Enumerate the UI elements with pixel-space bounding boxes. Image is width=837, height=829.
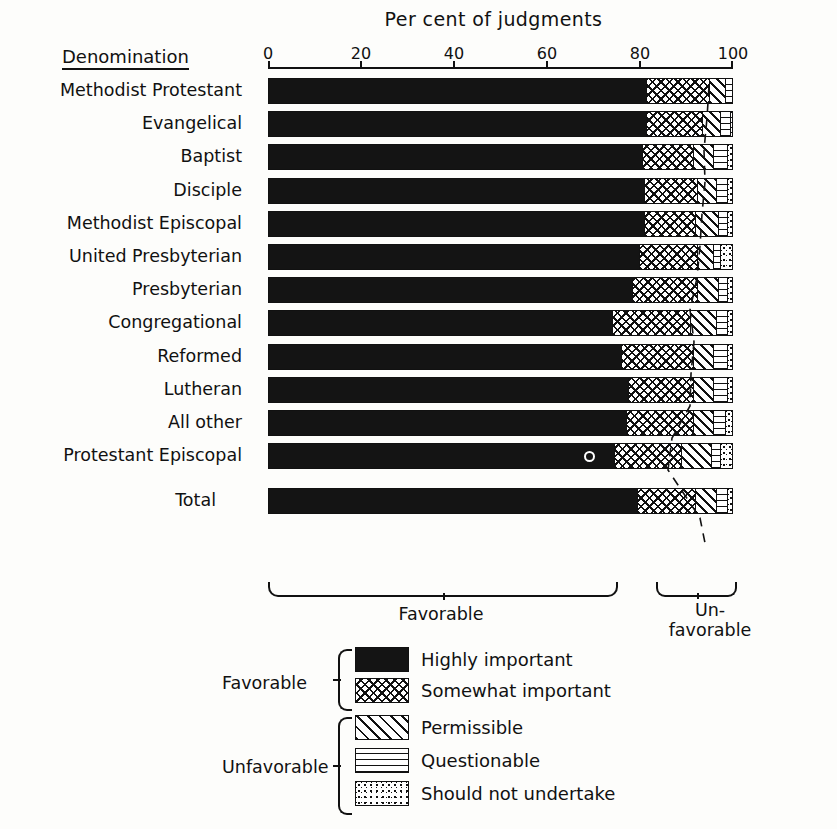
- x-axis-tick-label-100: 100: [718, 44, 749, 63]
- stacked-bar: [268, 144, 733, 170]
- legend-label-somewhat: Somewhat important: [421, 680, 611, 701]
- stacked-bar: [268, 211, 733, 237]
- bar-segment-somewhat: [632, 278, 697, 302]
- stacked-bar: [268, 344, 733, 370]
- bar-segment-shouldnot: [727, 378, 732, 402]
- bar-segment-somewhat: [644, 212, 695, 236]
- bar-segment-permissible: [693, 378, 714, 402]
- x-axis-line: [268, 67, 733, 69]
- bar-row: Congregational: [0, 310, 837, 343]
- bar-segment-somewhat: [637, 489, 695, 513]
- stacked-bar: [268, 178, 733, 204]
- bar-segment-somewhat: [642, 145, 693, 169]
- bar-segment-somewhat: [614, 444, 681, 468]
- legend-item-shouldnot: Should not undertake: [355, 781, 615, 806]
- bar-row-label: Methodist Episcopal: [67, 213, 242, 233]
- bar-segment-highly: [269, 245, 639, 269]
- x-axis-tick-label-20: 20: [351, 44, 371, 63]
- unfavorable-label-line1: Un-: [695, 600, 725, 620]
- stacked-bar: [268, 443, 733, 469]
- legend-item-somewhat: Somewhat important: [355, 678, 611, 703]
- x-axis-tick-label-0: 0: [263, 44, 273, 63]
- bar-segment-highly: [269, 112, 646, 136]
- bar-row: All other: [0, 410, 837, 443]
- bar-segment-somewhat: [639, 245, 697, 269]
- bar-row: Total: [0, 488, 837, 521]
- bottom-brackets: Favorable Un- favorable: [0, 582, 837, 642]
- unfavorable-bracket: [656, 582, 737, 597]
- bar-row-label: Presbyterian: [132, 279, 242, 299]
- legend: Favorable Unfavorable Highly importantSo…: [0, 645, 837, 825]
- legend-item-questionable: Questionable: [355, 748, 540, 773]
- bar-segment-somewhat: [621, 345, 693, 369]
- chart-root: Per cent of judgments Denomination 02040…: [0, 0, 837, 829]
- bar-row-label: Total: [175, 490, 216, 510]
- bar-row-label: Disciple: [173, 180, 242, 200]
- bar-segment-shouldnot: [725, 411, 732, 435]
- bar-segment-questionable: [713, 345, 727, 369]
- bar-segment-questionable: [716, 311, 728, 335]
- unfavorable-bracket-label: Un- favorable: [640, 600, 780, 640]
- stacked-bar: [268, 244, 733, 270]
- favorable-bracket: [268, 582, 618, 597]
- bar-segment-shouldnot: [727, 212, 732, 236]
- legend-swatch-somewhat: [355, 678, 409, 703]
- bar-row: Baptist: [0, 144, 837, 177]
- stacked-bar: [268, 488, 733, 514]
- legend-swatch-shouldnot: [355, 781, 409, 806]
- legend-brace-favorable: [338, 649, 352, 711]
- bar-segment-somewhat: [612, 311, 691, 335]
- bar-row: Methodist Protestant: [0, 78, 837, 111]
- legend-swatch-permissible: [355, 715, 409, 740]
- bar-row: Protestant Episcopal: [0, 443, 837, 476]
- bar-segment-shouldnot: [727, 489, 732, 513]
- bar-segment-permissible: [697, 278, 718, 302]
- x-axis-tick-label-40: 40: [444, 44, 464, 63]
- bar-segment-highly: [269, 212, 644, 236]
- legend-group-favorable: Favorable: [222, 673, 307, 693]
- bar-segment-highly: [269, 145, 642, 169]
- bar-row-label: Protestant Episcopal: [63, 445, 242, 465]
- legend-brace-unfavorable: [338, 717, 352, 815]
- bar-segment-questionable: [713, 245, 720, 269]
- legend-item-highly: Highly important: [355, 647, 573, 672]
- bar-segment-questionable: [718, 278, 727, 302]
- bar-segment-highly: [269, 411, 626, 435]
- unfavorable-label-line2: favorable: [669, 620, 752, 640]
- bar-segment-highly: [269, 179, 644, 203]
- bar-row-label: Reformed: [157, 346, 242, 366]
- bar-segment-highly: [269, 311, 612, 335]
- bar-segment-highly: [269, 489, 637, 513]
- bar-row-label: All other: [168, 412, 242, 432]
- bar-segment-shouldnot: [727, 278, 732, 302]
- legend-label-permissible: Permissible: [421, 717, 523, 738]
- bar-segment-shouldnot: [720, 444, 732, 468]
- bar-segment-somewhat: [628, 378, 693, 402]
- legend-label-questionable: Questionable: [421, 750, 540, 771]
- stacked-bar: [268, 310, 733, 336]
- bar-row: Presbyterian: [0, 277, 837, 310]
- bar-segment-questionable: [716, 179, 728, 203]
- favorable-bracket-label: Favorable: [268, 604, 614, 624]
- bar-row-label: Baptist: [180, 146, 242, 166]
- bar-segment-permissible: [690, 311, 715, 335]
- bar-segment-shouldnot: [727, 179, 732, 203]
- x-axis-tick-label-80: 80: [630, 44, 650, 63]
- bar-row: Evangelical: [0, 111, 837, 144]
- bar-segment-highly: [269, 378, 628, 402]
- bar-segment-permissible: [709, 79, 725, 103]
- legend-label-shouldnot: Should not undertake: [421, 783, 615, 804]
- chart-title: Per cent of judgments: [0, 8, 837, 30]
- stacked-bar: [268, 78, 733, 104]
- legend-swatch-highly: [355, 647, 409, 672]
- bar-row: Reformed: [0, 344, 837, 377]
- stacked-bar: [268, 377, 733, 403]
- bar-segment-shouldnot: [720, 245, 732, 269]
- legend-item-permissible: Permissible: [355, 715, 523, 740]
- bar-segment-permissible: [702, 112, 721, 136]
- bar-segment-permissible: [693, 145, 714, 169]
- bar-segment-permissible: [697, 179, 716, 203]
- bar-segment-highly: [269, 79, 646, 103]
- legend-swatch-questionable: [355, 748, 409, 773]
- bar-segment-questionable: [713, 145, 727, 169]
